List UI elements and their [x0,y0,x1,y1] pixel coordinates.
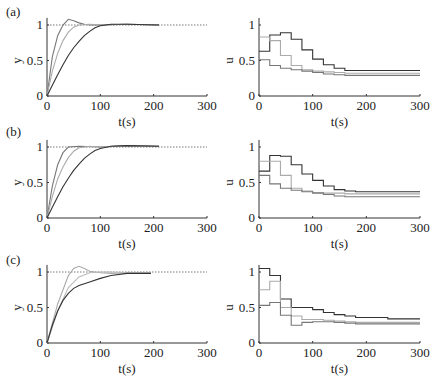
x-tick-label: 0 [44,98,51,113]
series-fast [47,19,159,96]
series-slow [47,146,159,218]
y-axis-label: u [221,304,236,311]
x-axis-label: t(s) [331,361,348,376]
y-axis-label: u [221,179,236,186]
y-tick-label: 1 [249,264,256,279]
plot-c-left: 010020030000.51t(s)y [9,264,217,376]
series-slow [259,33,420,71]
y-tick-label: 1 [37,139,44,154]
series-medium [47,146,159,218]
series-slow [259,268,420,318]
plot-a-left: 010020030000.51t(s)y [9,17,217,129]
y-tick-label: 0 [37,335,44,350]
series-medium [47,24,159,96]
y-axis-label: y [9,57,24,64]
x-tick-label: 100 [303,98,323,113]
y-tick-label: 0.5 [27,175,43,190]
plot-c-right: 010020030000.51t(s)u [221,264,430,376]
y-tick-label: 0.5 [239,175,255,190]
x-tick-label: 300 [410,220,430,235]
x-tick-label: 200 [144,98,164,113]
x-tick-label: 100 [91,220,111,235]
x-tick-label: 0 [256,98,263,113]
series-medium [259,161,420,194]
plot-a-right: 010020030000.51t(s)u [221,17,430,129]
y-tick-label: 0 [249,210,256,225]
x-tick-label: 200 [144,220,164,235]
x-tick-label: 0 [44,345,51,360]
series-fast [259,303,420,326]
x-tick-label: 100 [91,98,111,113]
y-tick-label: 1 [249,139,256,154]
y-tick-label: 0.5 [239,300,255,315]
x-tick-label: 0 [256,220,263,235]
x-tick-label: 0 [256,345,263,360]
y-tick-label: 1 [37,17,44,32]
series-fast [47,146,159,218]
x-tick-label: 300 [410,98,430,113]
x-tick-label: 200 [357,220,377,235]
series-slow [47,24,159,96]
x-axis-label: t(s) [331,114,348,129]
x-tick-label: 200 [357,345,377,360]
series-medium [47,272,151,343]
y-axis-label: y [9,304,24,311]
x-tick-label: 300 [197,98,217,113]
y-tick-label: 1 [249,17,256,32]
x-tick-label: 0 [44,220,51,235]
series-slow [47,273,151,343]
x-axis-label: t(s) [118,114,135,129]
x-axis-label: t(s) [331,236,348,251]
chart-canvas: 010020030000.51t(s)y010020030000.51t(s)u… [0,0,437,387]
y-axis-label: u [221,57,236,64]
y-tick-label: 0.5 [27,53,43,68]
x-tick-label: 300 [410,345,430,360]
series-medium [259,281,420,322]
y-tick-label: 0 [37,88,44,103]
x-tick-label: 200 [357,98,377,113]
y-tick-label: 0 [249,335,256,350]
y-tick-label: 1 [37,264,44,279]
x-tick-label: 200 [144,345,164,360]
x-tick-label: 100 [91,345,111,360]
y-tick-label: 0 [37,210,44,225]
series-fast [47,266,151,343]
x-tick-label: 300 [197,220,217,235]
series-slow [259,156,420,192]
x-tick-label: 100 [303,220,323,235]
y-tick-label: 0.5 [239,53,255,68]
y-axis-label: y [9,179,24,186]
y-tick-label: 0 [249,88,256,103]
x-axis-label: t(s) [118,236,135,251]
plot-b-left: 010020030000.51t(s)y [9,139,217,251]
x-tick-label: 300 [197,345,217,360]
x-axis-label: t(s) [118,361,135,376]
y-tick-label: 0.5 [27,300,43,315]
x-tick-label: 100 [303,345,323,360]
plot-b-right: 010020030000.51t(s)u [221,139,430,251]
